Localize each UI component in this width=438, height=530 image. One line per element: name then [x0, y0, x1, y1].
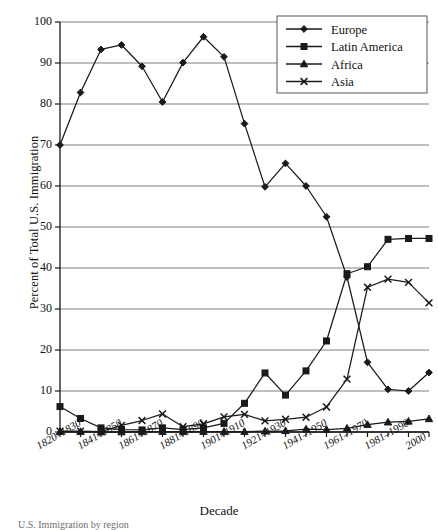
- data-point: [323, 404, 330, 411]
- series-asia: [57, 276, 433, 435]
- data-point: [426, 299, 433, 306]
- data-point: [98, 46, 105, 53]
- x-axis-title: Decade: [0, 503, 438, 519]
- data-point: [262, 370, 268, 376]
- data-point: [385, 236, 391, 242]
- data-point: [303, 368, 309, 374]
- data-point: [159, 411, 166, 418]
- chart-plot-area: EuropeLatin AmericaAfricaAsia: [0, 0, 438, 530]
- y-tick-label: 90: [20, 55, 52, 70]
- y-tick-label: 10: [20, 383, 52, 398]
- data-point: [241, 120, 248, 127]
- y-tick-label: 60: [20, 178, 52, 193]
- data-point: [323, 213, 330, 220]
- data-point: [425, 415, 432, 422]
- legend-label: Asia: [331, 75, 354, 89]
- y-tick-label: 20: [20, 342, 52, 357]
- data-point: [324, 338, 330, 344]
- data-point: [57, 404, 63, 410]
- data-point: [283, 392, 289, 398]
- legend-label: Africa: [331, 58, 363, 72]
- y-tick-label: 100: [20, 14, 52, 29]
- line-chart-svg: EuropeLatin AmericaAfricaAsia: [0, 0, 438, 530]
- data-point: [57, 142, 64, 149]
- data-point: [406, 235, 412, 241]
- data-point: [426, 235, 432, 241]
- data-point: [242, 400, 248, 406]
- figure-root: EuropeLatin AmericaAfricaAsia Percent of…: [0, 0, 438, 530]
- y-tick-label: 30: [20, 301, 52, 316]
- legend-label: Europe: [331, 23, 368, 37]
- figure-caption: U.S. Immigration by region: [0, 519, 438, 530]
- data-point: [344, 271, 350, 277]
- legend-label: Latin America: [331, 40, 403, 54]
- data-point: [365, 264, 371, 270]
- series-latin-america: [57, 235, 432, 432]
- y-tick-label: 70: [20, 137, 52, 152]
- y-tick-label: 80: [20, 96, 52, 111]
- y-tick-label: 50: [20, 219, 52, 234]
- data-point: [77, 89, 84, 96]
- y-tick-label: 40: [20, 260, 52, 275]
- chart-legend: EuropeLatin AmericaAfricaAsia: [277, 16, 427, 93]
